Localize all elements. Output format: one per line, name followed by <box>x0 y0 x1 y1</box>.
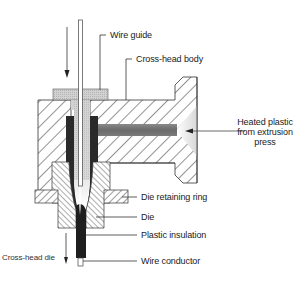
wire-conductor-end <box>78 258 83 266</box>
plastic-insulation <box>76 204 86 258</box>
label-heated-plastic: Heated plastic from extrusion press <box>230 117 300 147</box>
label-wire-guide: Wire guide <box>110 30 152 40</box>
label-die: Die <box>141 212 154 222</box>
label-plastic-insulation: Plastic insulation <box>141 230 206 240</box>
label-wire-conductor: Wire conductor <box>141 256 200 266</box>
label-cross-head-body: Cross-head body <box>136 54 203 64</box>
label-die-retaining-ring: Die retaining ring <box>141 192 207 202</box>
wire-conductor-top <box>79 20 83 186</box>
label-cross-head-die: Cross-head die <box>2 253 55 263</box>
down-arrow <box>64 233 68 264</box>
down-arrow <box>65 27 70 78</box>
plastic-channel <box>97 124 177 136</box>
